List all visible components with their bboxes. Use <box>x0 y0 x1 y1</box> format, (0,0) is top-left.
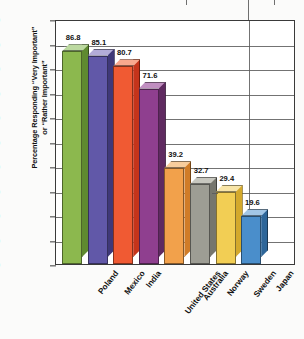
x-axis-category-label: India <box>145 269 164 290</box>
bar-value-label: 19.6 <box>245 198 260 207</box>
bar-side-face <box>261 209 268 257</box>
bar-value-label: 32.7 <box>194 166 209 175</box>
bar: 71.6 <box>139 89 159 264</box>
x-axis-category-label: Poland <box>96 269 120 296</box>
y-axis-tick-mark <box>50 94 56 95</box>
bar-value-label: 39.2 <box>168 150 183 159</box>
x-axis-category-label: Sweden <box>251 269 277 299</box>
bar: 19.6 <box>241 216 261 264</box>
y-axis-tick-mark <box>50 20 56 21</box>
y-axis-tick-mark <box>50 45 56 46</box>
bar-value-label: 29.4 <box>219 174 234 183</box>
bar: 32.7 <box>190 184 210 264</box>
x-axis-category-label: Mexico <box>122 269 146 296</box>
y-axis-tick-mark <box>50 265 56 266</box>
bar-value-label: 85.1 <box>91 38 106 47</box>
y-axis-tick-mark <box>50 69 56 70</box>
y-axis-tick-mark <box>50 167 56 168</box>
y-axis-tick-mark <box>50 143 56 144</box>
x-axis-category-label: Japan <box>274 269 296 293</box>
y-axis-tick-mark <box>50 216 56 217</box>
bar-front-face <box>88 56 108 264</box>
bar: 86.8 <box>62 51 82 264</box>
bar-front-face <box>113 66 133 264</box>
bar-chart: Percentage Responding “Very Important” o… <box>0 0 304 339</box>
plot-area: 86.885.180.771.639.232.729.419.6 <box>55 20 295 265</box>
bar-front-face <box>216 192 236 264</box>
bar: 80.7 <box>113 66 133 264</box>
bar-front-face <box>164 168 184 264</box>
value-label-leader-line <box>212 193 218 194</box>
y-axis-tick-mark <box>50 192 56 193</box>
page-bleed-mark <box>274 0 275 5</box>
bar-value-label: 71.6 <box>143 71 158 80</box>
bar-front-face <box>241 216 261 264</box>
page-bleed-mark <box>248 0 249 20</box>
value-label-leader-line <box>58 46 64 47</box>
y-axis-tick-mark <box>50 118 56 119</box>
y-axis-title: Percentage Responding “Very Important” o… <box>30 0 49 208</box>
bar: 29.4 <box>216 192 236 264</box>
page-bleed-mark <box>186 0 187 5</box>
bar-value-label: 86.8 <box>66 33 81 42</box>
y-axis-title-line1: Percentage Responding “Very Important” <box>30 27 39 169</box>
bar-front-face <box>62 51 82 264</box>
bar: 39.2 <box>164 168 184 264</box>
bar-front-face <box>190 184 210 264</box>
bar: 85.1 <box>88 56 108 264</box>
bar-value-label: 80.7 <box>117 48 132 57</box>
y-axis-tick-mark <box>50 241 56 242</box>
y-axis-title-line2: or “Rather Important” <box>40 60 49 134</box>
bar-front-face <box>139 89 159 264</box>
